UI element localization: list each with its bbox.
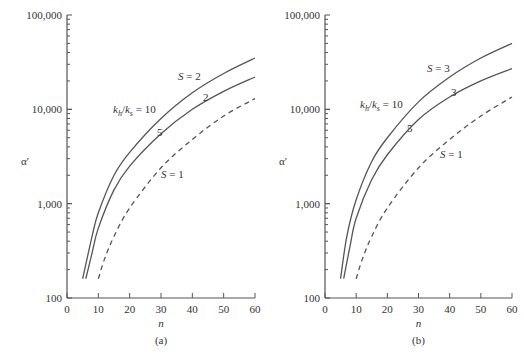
annotation-mid: 2 bbox=[203, 91, 209, 103]
annotation-s2: S = 2 bbox=[178, 70, 201, 82]
x-axis-label: n bbox=[416, 317, 422, 329]
x-tick-label: 20 bbox=[382, 303, 394, 315]
x-tick-label: 60 bbox=[507, 303, 519, 315]
annotation-mid: 3 bbox=[451, 86, 457, 98]
annotation-ratio: kh/ks = 10 bbox=[113, 103, 156, 118]
chart-panel-b: 1001,00010,000100,0000102030405060nα′(b)… bbox=[279, 9, 518, 347]
figure: 1001,00010,000100,0000102030405060nα′(a)… bbox=[0, 0, 524, 361]
y-tick-label: 10,000 bbox=[290, 103, 321, 115]
series-line bbox=[356, 97, 512, 279]
y-axis-label: α′ bbox=[279, 155, 287, 167]
x-tick-label: 30 bbox=[413, 303, 425, 315]
y-tick-label: 100,000 bbox=[284, 9, 320, 21]
series-line bbox=[98, 99, 255, 279]
x-tick-label: 30 bbox=[156, 303, 168, 315]
x-tick-label: 50 bbox=[218, 303, 230, 315]
y-tick-label: 1,000 bbox=[295, 198, 320, 210]
y-tick-label: 10,000 bbox=[32, 103, 63, 115]
y-tick-label: 100,000 bbox=[26, 9, 62, 21]
y-tick-label: 100 bbox=[46, 292, 63, 304]
annotation-five: 5 bbox=[157, 126, 163, 138]
annotation-s1: S = 1 bbox=[161, 168, 184, 180]
x-tick-label: 40 bbox=[187, 303, 199, 315]
x-tick-label: 60 bbox=[250, 303, 262, 315]
panel-label: (a) bbox=[155, 334, 168, 347]
annotation-five: 5 bbox=[407, 122, 413, 134]
annotation-s1: S = 1 bbox=[440, 148, 463, 160]
x-tick-label: 10 bbox=[351, 303, 363, 315]
x-tick-label: 20 bbox=[124, 303, 136, 315]
x-tick-label: 0 bbox=[322, 303, 328, 315]
y-tick-label: 1,000 bbox=[37, 198, 62, 210]
y-axis-label: α′ bbox=[21, 155, 29, 167]
x-tick-label: 50 bbox=[475, 303, 487, 315]
annotation-s3: S = 3 bbox=[427, 62, 450, 74]
x-tick-label: 10 bbox=[93, 303, 105, 315]
x-tick-label: 40 bbox=[444, 303, 456, 315]
annotation-ratio: kh/ks = 10 bbox=[360, 98, 403, 113]
panel-label: (b) bbox=[412, 334, 425, 347]
x-axis-label: n bbox=[158, 317, 164, 329]
chart-panel-a: 1001,00010,000100,0000102030405060nα′(a)… bbox=[21, 9, 261, 347]
y-tick-label: 100 bbox=[304, 292, 321, 304]
x-tick-label: 0 bbox=[64, 303, 70, 315]
